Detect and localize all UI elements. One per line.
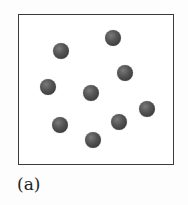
figure-canvas: (a) [0, 0, 188, 205]
particle-sphere [83, 85, 99, 101]
particle-sphere [105, 30, 121, 46]
particle-sphere [40, 79, 56, 95]
particle-sphere [53, 43, 69, 59]
particle-sphere [117, 65, 133, 81]
particle-sphere [85, 132, 101, 148]
particle-sphere [52, 117, 68, 133]
figure-caption: (a) [17, 176, 40, 193]
particle-sphere [139, 101, 155, 117]
particle-sphere [111, 114, 127, 130]
